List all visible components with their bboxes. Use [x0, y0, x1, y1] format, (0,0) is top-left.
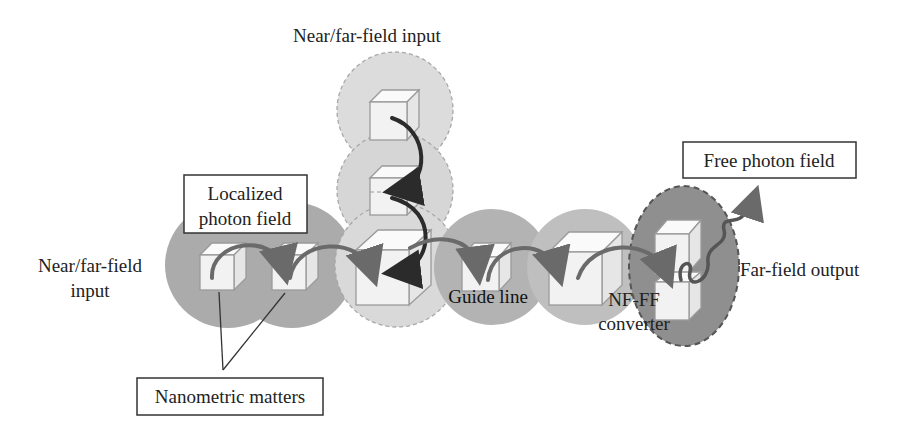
- localized-line1: Localized: [208, 183, 283, 204]
- label-guide-line: Guide line: [448, 286, 528, 307]
- nanometric-label: Nanometric matters: [155, 386, 305, 407]
- label-far-field-output: Far-field output: [740, 259, 860, 280]
- label-left-input-1: Near/far-field: [38, 255, 143, 276]
- cube-1: [200, 243, 246, 290]
- label-top-input: Near/far-field input: [293, 25, 442, 46]
- nanometric-matters-box: Nanometric matters: [137, 378, 323, 415]
- localized-line2: photon field: [199, 208, 292, 229]
- nanophotonic-diagram: Near/far-field input Localized photon fi…: [0, 0, 903, 438]
- free-photon-label: Free photon field: [704, 150, 835, 171]
- label-left-input-2: input: [70, 280, 110, 301]
- localized-photon-field-box: Localized photon field: [184, 175, 307, 233]
- label-nfff-2: converter: [598, 313, 670, 334]
- cube-center: [356, 230, 431, 305]
- free-photon-field-box: Free photon field: [683, 142, 856, 178]
- label-nfff-1: NF-FF: [608, 289, 660, 310]
